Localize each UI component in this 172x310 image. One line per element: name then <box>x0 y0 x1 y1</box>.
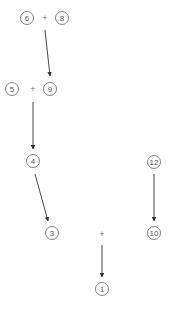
plus-operator: + <box>42 13 47 23</box>
node-12: 12 <box>148 156 161 169</box>
edges-group <box>33 30 154 277</box>
node-label: 3 <box>50 229 55 238</box>
node-label: 10 <box>150 229 159 238</box>
node-4: 4 <box>27 155 40 168</box>
plus-label: + <box>30 84 35 94</box>
node-label: 9 <box>48 85 53 94</box>
plus-label: + <box>42 13 47 23</box>
arrow-edge <box>45 30 50 76</box>
node-9: 9 <box>44 83 57 96</box>
node-label: 12 <box>150 158 159 167</box>
node-6: 6 <box>21 12 34 25</box>
arrow-edge <box>35 174 48 221</box>
node-label: 5 <box>10 85 15 94</box>
node-5: 5 <box>6 83 19 96</box>
node-1: 1 <box>96 283 109 296</box>
node-8: 8 <box>56 12 69 25</box>
nodes-group: 68594123101 <box>6 12 161 296</box>
node-10: 10 <box>148 227 161 240</box>
node-label: 4 <box>31 157 36 166</box>
operators-group: +++ <box>30 13 104 239</box>
node-label: 1 <box>100 285 105 294</box>
node-3: 3 <box>46 227 59 240</box>
diagram-canvas: +++ 68594123101 <box>0 0 172 310</box>
plus-operator: + <box>30 84 35 94</box>
plus-operator: + <box>99 229 104 239</box>
node-label: 6 <box>25 14 30 23</box>
plus-label: + <box>99 229 104 239</box>
node-label: 8 <box>60 14 65 23</box>
